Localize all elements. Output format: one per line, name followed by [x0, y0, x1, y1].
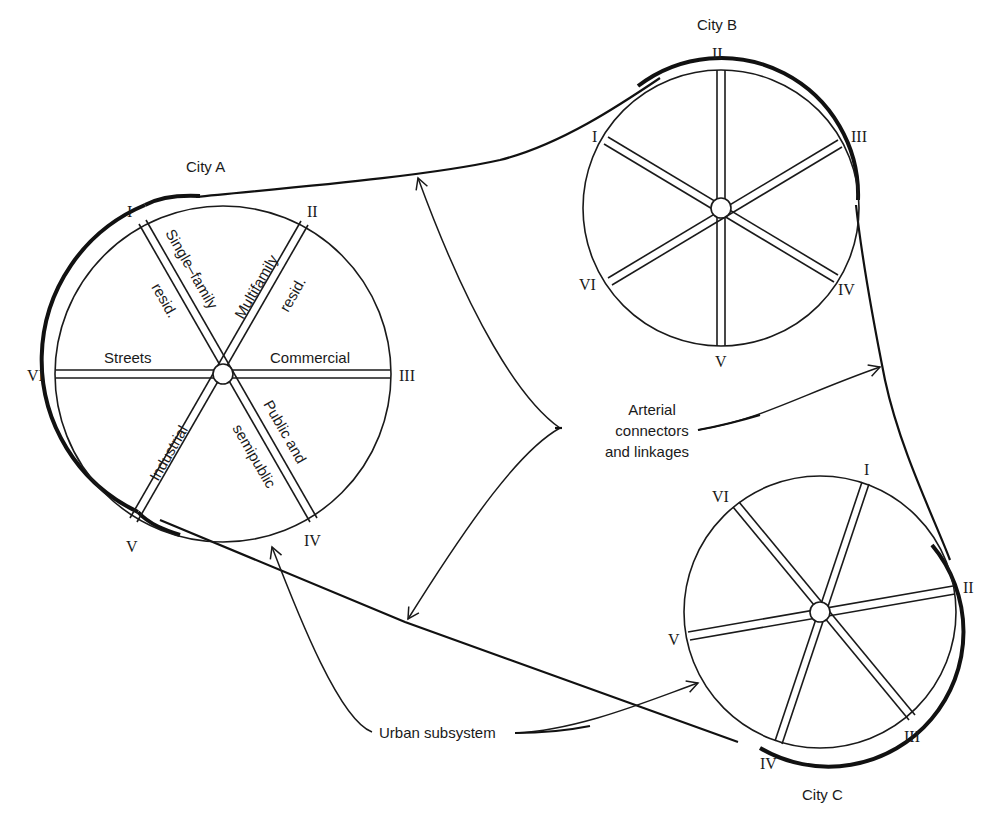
city-a-numeral-ii: II: [307, 203, 318, 220]
urban-arrow-city-c: [515, 683, 698, 733]
label-multifamily-resid: resid.: [276, 274, 309, 314]
city-c-numeral-iv: IV: [760, 755, 777, 772]
city-a-numeral-iv: IV: [304, 532, 321, 549]
city-b-numeral-ii: II: [712, 45, 723, 62]
city-c-title: City C: [802, 786, 843, 803]
urban-subsystem-label: Urban subsystem: [379, 724, 496, 741]
city-b-numeral-iii: III: [851, 128, 867, 145]
city-a-numeral-v: V: [126, 538, 138, 555]
label-multifamily: Multifamily: [231, 251, 281, 321]
city-b-numeral-iv: IV: [838, 281, 855, 298]
city-b-numeral-vi: VI: [579, 276, 596, 293]
city-c-hub: [810, 602, 830, 622]
city-a-numeral-iii: III: [399, 367, 415, 384]
city-b-title: City B: [697, 16, 737, 33]
city-c-numeral-ii: II: [963, 579, 974, 596]
city-b-numeral-i: I: [592, 128, 597, 145]
arterial-arrow-top: [418, 178, 560, 428]
arterial-arrow-bottom: [408, 428, 560, 619]
city-b-hub: [711, 198, 731, 218]
urban-subsystem-callout: Urban subsystem: [272, 547, 698, 741]
label-industrial: Industrial: [146, 422, 191, 483]
arterial-label-line2: connectors: [615, 422, 688, 439]
city-c-numeral-vi: VI: [712, 488, 729, 505]
urban-arrow-city-a: [272, 547, 372, 732]
city-a-title: City A: [186, 158, 225, 175]
arterial-arrow-right: [698, 367, 880, 430]
city-c-numeral-iii: III: [904, 728, 920, 745]
arterial-label-line3: and linkages: [605, 443, 689, 460]
city-a-hub: [213, 364, 233, 384]
label-single-family-resid: resid.: [148, 280, 181, 320]
city-c-numeral-v: V: [668, 631, 680, 648]
city-a: City A I II III IV V VI Single–family re…: [27, 158, 415, 555]
city-a-numeral-vi: VI: [27, 367, 44, 384]
arterial-linkage-loop: [42, 58, 964, 767]
city-c-numeral-i: I: [864, 461, 869, 478]
label-commercial: Commercial: [270, 349, 350, 366]
city-a-numeral-i: I: [127, 203, 132, 220]
city-b: City B II I III IV V VI: [579, 16, 867, 370]
city-c: City C I VI II III IV V: [668, 461, 974, 803]
city-b-numeral-v: V: [715, 353, 727, 370]
label-streets: Streets: [104, 349, 152, 366]
urban-system-diagram: City A I II III IV V VI Single–family re…: [0, 0, 991, 819]
arterial-callout: Arterial connectors and linkages: [408, 178, 880, 619]
arterial-label-line1: Arterial: [628, 401, 676, 418]
